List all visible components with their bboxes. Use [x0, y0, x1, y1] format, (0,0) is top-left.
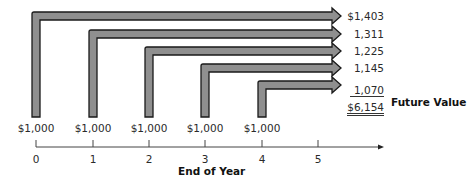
- axis-title: End of Year: [178, 165, 245, 177]
- flow-arrow-year-0: [32, 8, 341, 117]
- tick-label-0: 0: [33, 153, 40, 165]
- future-value-year-1: 1,311: [344, 28, 384, 40]
- flow-arrow-year-4: [258, 77, 341, 117]
- cash-flow-diagram: [0, 0, 476, 179]
- tick-label-3: 3: [202, 153, 209, 165]
- future-value-year-0: $1,403: [344, 10, 384, 22]
- future-value-year-3: 1,145: [344, 62, 384, 74]
- flow-arrow-year-2: [145, 43, 341, 117]
- deposit-label-year-4: $1,000: [244, 122, 281, 134]
- future-value-total: $6,154: [347, 101, 384, 116]
- deposit-label-year-3: $1,000: [187, 122, 224, 134]
- flow-arrows: [32, 8, 341, 117]
- tick-label-4: 4: [259, 153, 266, 165]
- tick-label-5: 5: [315, 153, 322, 165]
- tick-label-2: 2: [146, 153, 153, 165]
- future-value-label: Future Value: [391, 96, 466, 108]
- tick-label-1: 1: [90, 153, 97, 165]
- deposit-label-year-0: $1,000: [18, 122, 55, 134]
- deposit-label-year-2: $1,000: [131, 122, 168, 134]
- deposit-label-year-1: $1,000: [75, 122, 112, 134]
- timeline-axis: [36, 140, 384, 150]
- axis-arrowhead-icon: [378, 145, 384, 150]
- future-value-year-2: 1,225: [344, 45, 384, 57]
